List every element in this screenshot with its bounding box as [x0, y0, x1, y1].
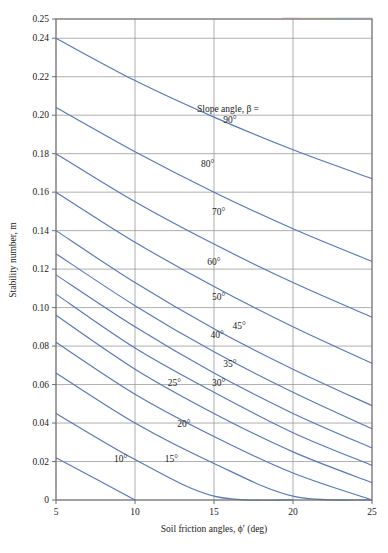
y-tick-label: 0.12	[32, 264, 49, 274]
x-tick-label: 10	[130, 507, 140, 517]
chart-canvas: 00.020.040.060.080.100.120.140.160.180.2…	[0, 0, 388, 553]
curve-label-45°: 45°	[233, 321, 247, 331]
x-axis-title: Soil friction angles, ϕ′ (deg)	[161, 524, 268, 535]
y-tick-label: 0	[44, 495, 49, 505]
curve-label-60°: 60°	[207, 257, 221, 267]
curve-label-25°: 25°	[168, 378, 182, 388]
y-tick-label: 0.14	[32, 226, 49, 236]
y-tick-label: 0.02	[32, 457, 49, 467]
y-tick-label: 0.20	[32, 110, 49, 120]
y-tick-label: 0.08	[32, 341, 49, 351]
x-tick-label: 20	[288, 507, 298, 517]
y-tick-label: 0.06	[32, 380, 49, 390]
y-tick-label: 0.22	[32, 72, 49, 82]
curve-label-80°: 80°	[201, 159, 215, 169]
y-tick-label: 0.18	[32, 149, 49, 159]
curve-label-70°: 70°	[212, 207, 226, 217]
curve-label-40°: 40°	[211, 330, 225, 340]
curve-label-10°: 10°	[114, 454, 128, 464]
x-tick-label: 15	[209, 507, 219, 517]
y-tick-label: 0.16	[32, 187, 49, 197]
y-tick-label: 0.04	[32, 418, 49, 428]
curve-label-90°: 90°	[223, 115, 237, 125]
curve-label-15°: 15°	[165, 454, 179, 464]
curve-label-30°: 30°	[212, 378, 226, 388]
curve-label-20°: 20°	[177, 419, 191, 429]
x-tick-label: 25	[367, 507, 377, 517]
x-tick-label: 5	[54, 507, 59, 517]
curve-label-50°: 50°	[212, 292, 226, 302]
stability-number-chart-figure: 00.020.040.060.080.100.120.140.160.180.2…	[0, 0, 388, 553]
y-tick-label: 0.25	[32, 14, 49, 24]
curve-label-35°: 35°	[223, 359, 237, 369]
legend-title: Slope angle, β =	[197, 104, 259, 114]
y-tick-label: 0.10	[32, 303, 49, 313]
y-axis-title: Stability number, m	[8, 222, 18, 298]
y-tick-label: 0.24	[32, 33, 49, 43]
